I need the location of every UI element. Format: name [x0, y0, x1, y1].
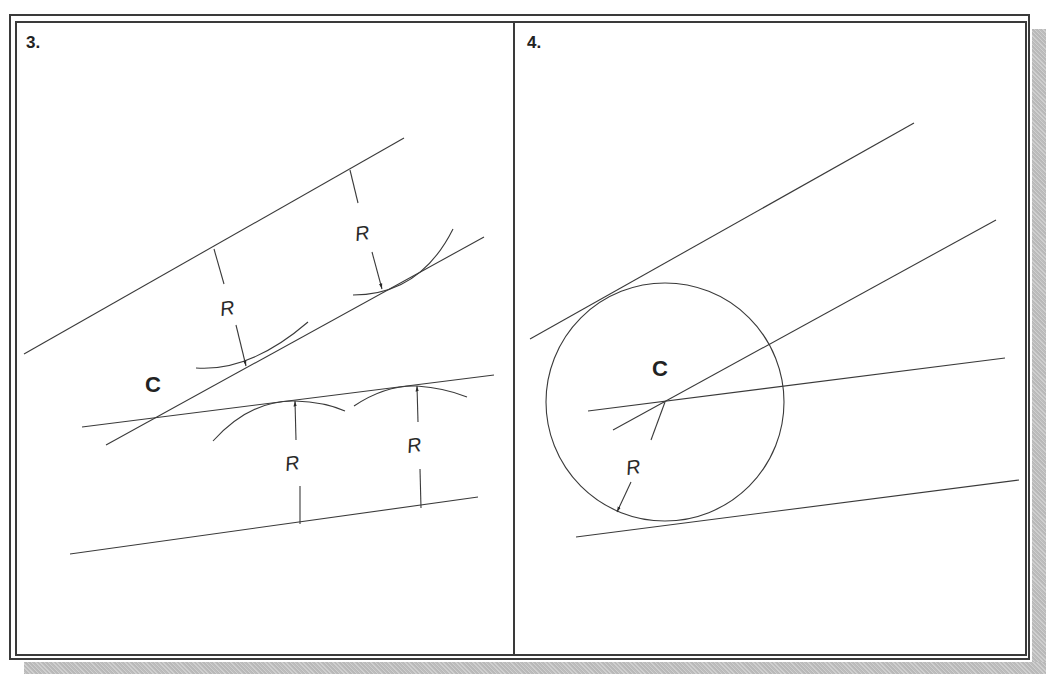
- radius-label: R: [219, 296, 236, 320]
- radius-dimension: [214, 249, 224, 284]
- panel-4-label: 4.: [527, 33, 541, 53]
- panel-3-construction: [24, 138, 494, 554]
- radius-dimension: [295, 401, 296, 440]
- given-line-2: [70, 497, 478, 554]
- center-label-c: C: [652, 356, 668, 381]
- radius-dimension: [372, 252, 382, 289]
- geometric-construction-drawing: R R R R R C C: [0, 0, 1046, 674]
- panel-4-construction: [530, 123, 1019, 537]
- radius-dimension: [350, 170, 358, 203]
- construction-arc: [354, 386, 467, 406]
- radius-label: R: [354, 221, 371, 245]
- radius-dimension: [617, 482, 631, 512]
- construction-arc: [196, 322, 308, 368]
- radius-labels: R R R R R: [219, 221, 642, 479]
- offset-line-1: [613, 220, 996, 430]
- radius-dimension: [420, 469, 421, 508]
- radius-label: R: [625, 455, 642, 479]
- center-label-c: C: [145, 372, 161, 397]
- given-line-1: [24, 138, 404, 354]
- offset-line-2: [588, 358, 1005, 411]
- radius-dimension: [417, 386, 418, 422]
- radius-label: R: [406, 433, 423, 457]
- panel-3-label: 3.: [26, 33, 40, 53]
- given-line-1: [530, 123, 914, 339]
- given-line-2: [576, 480, 1019, 537]
- radius-label: R: [284, 451, 301, 475]
- radius-dimension: [236, 325, 246, 366]
- construction-arc: [213, 401, 345, 441]
